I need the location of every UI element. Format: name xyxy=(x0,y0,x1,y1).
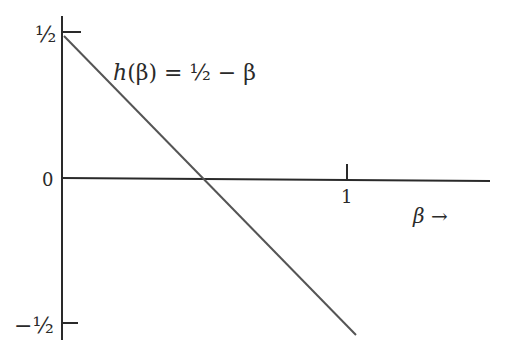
y-label-zero: 0 xyxy=(42,169,53,190)
x-axis-label: β → xyxy=(412,204,448,228)
function-label: h(β) = ½ − β xyxy=(113,60,256,85)
x-axis xyxy=(62,178,490,181)
chart: ½ 0 −½ 1 β → h(β) = ½ − β xyxy=(0,0,505,364)
y-label-half: ½ xyxy=(35,22,56,47)
x-label-one: 1 xyxy=(341,186,352,207)
y-label-neg-half: −½ xyxy=(14,313,54,338)
